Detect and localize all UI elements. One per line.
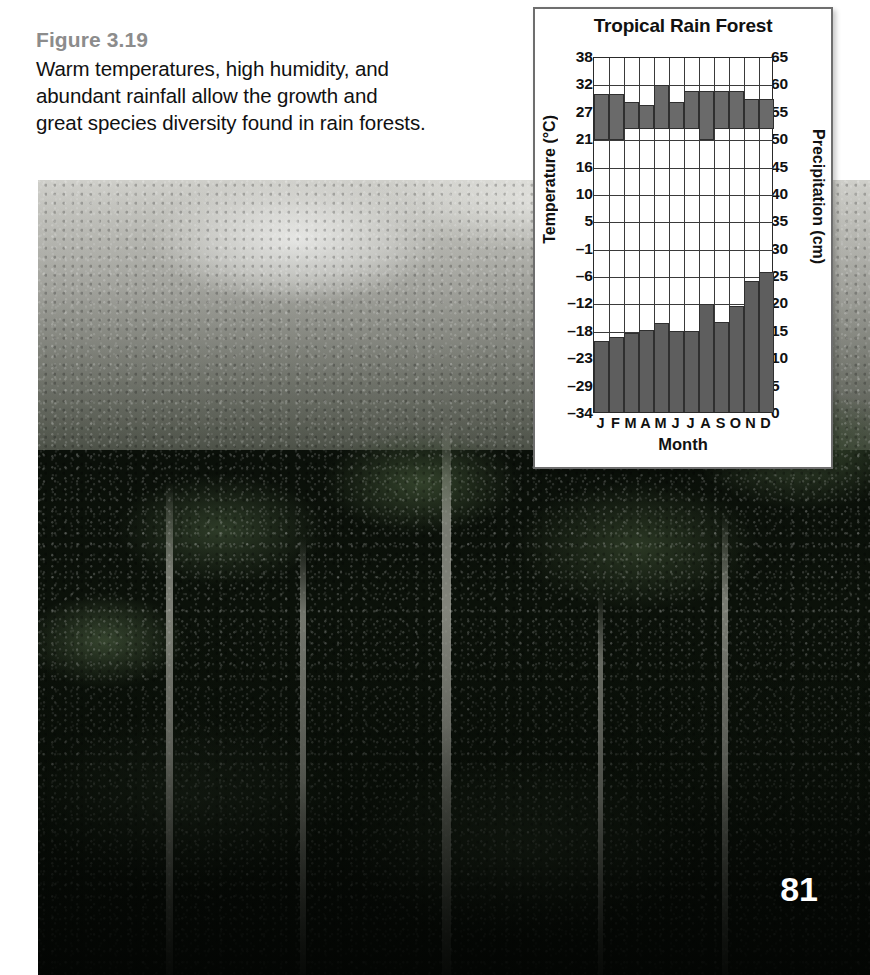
y-tick-right: 45 [771, 159, 807, 175]
gridline-horizontal [594, 140, 772, 141]
caption-line-3: great species diversity found in rain fo… [36, 109, 476, 136]
y-tick-left: –6 [557, 268, 593, 284]
figure-caption: Figure 3.19 Warm temperatures, high humi… [36, 28, 476, 136]
x-tick-month: J [668, 415, 683, 431]
gridline-horizontal [594, 222, 772, 223]
gridline-horizontal [594, 277, 772, 278]
temperature-range-band [744, 99, 759, 129]
x-tick-month: M [653, 415, 668, 431]
x-tick-month: N [743, 415, 758, 431]
y-tick-right: 20 [771, 296, 807, 312]
y-tick-right: 15 [771, 323, 807, 339]
y-tick-right: 55 [771, 104, 807, 120]
climatogram-chart: Tropical Rain Forest Temperature (°C) Pr… [533, 7, 833, 469]
x-tick-month: M [623, 415, 638, 431]
chart-title: Tropical Rain Forest [535, 15, 831, 37]
y-tick-right: 0 [771, 405, 807, 421]
y-tick-right: 25 [771, 268, 807, 284]
y-axis-ticks-right: 65605550454035302520151050 [771, 43, 807, 413]
gridline-horizontal [594, 85, 772, 86]
precipitation-bar [714, 322, 729, 412]
temperature-range-band [669, 102, 684, 129]
temperature-range-band [699, 91, 714, 140]
figure-label: Figure 3.19 [36, 28, 476, 52]
y-tick-left: 38 [557, 49, 593, 65]
page-number: 81 [780, 870, 818, 909]
y-tick-right: 65 [771, 49, 807, 65]
temperature-range-band [729, 91, 744, 129]
y-axis-title-precipitation: Precipitation (cm) [809, 129, 827, 264]
y-tick-right: 50 [771, 131, 807, 147]
precipitation-bar [729, 306, 744, 412]
y-tick-left: –12 [557, 296, 593, 312]
y-tick-right: 35 [771, 214, 807, 230]
x-tick-month: S [713, 415, 728, 431]
temperature-range-band [609, 94, 624, 141]
y-tick-right: 5 [771, 378, 807, 394]
y-tick-right: 60 [771, 77, 807, 93]
y-tick-left: –18 [557, 323, 593, 339]
y-tick-left: 21 [557, 131, 593, 147]
temperature-range-band [624, 102, 639, 129]
y-tick-left: –29 [557, 378, 593, 394]
precipitation-bar [744, 281, 759, 412]
temperature-range-band [759, 99, 774, 129]
y-tick-left: –34 [557, 405, 593, 421]
y-tick-right: 40 [771, 186, 807, 202]
x-tick-month: D [758, 415, 773, 431]
precipitation-bar [654, 323, 669, 412]
y-tick-right: 30 [771, 241, 807, 257]
y-axis-ticks-left: 3832272116105–1–6–12–18–23–29–34 [557, 43, 593, 413]
y-tick-left: 27 [557, 104, 593, 120]
caption-line-1: Warm temperatures, high humidity, and [36, 55, 476, 82]
y-tick-left: 32 [557, 77, 593, 93]
precipitation-bar [624, 333, 639, 412]
y-tick-left: 16 [557, 159, 593, 175]
caption-line-2: abundant rainfall allow the growth and [36, 82, 476, 109]
x-tick-month: O [728, 415, 743, 431]
precipitation-bar [594, 341, 609, 412]
photo-understory-shadow [38, 609, 870, 975]
precipitation-bar [639, 330, 654, 412]
y-tick-left: –23 [557, 350, 593, 366]
temperature-range-band [594, 94, 609, 141]
plot-area [593, 57, 773, 413]
gridline-horizontal [594, 168, 772, 169]
chart-body: Temperature (°C) Precipitation (cm) 3832… [535, 43, 831, 443]
precipitation-bar [669, 331, 684, 412]
x-tick-month: A [638, 415, 653, 431]
x-tick-month: J [683, 415, 698, 431]
y-tick-left: 5 [557, 214, 593, 230]
figure-caption-text: Warm temperatures, high humidity, and ab… [36, 55, 476, 136]
temperature-range-band [714, 91, 729, 129]
y-tick-left: 10 [557, 186, 593, 202]
x-axis-title: Month [593, 435, 773, 454]
x-axis-month-labels: JFMAMJJASOND [593, 415, 773, 431]
gridline-horizontal [594, 250, 772, 251]
gridline-horizontal [594, 195, 772, 196]
precipitation-bar [684, 331, 699, 412]
x-tick-month: F [608, 415, 623, 431]
temperature-range-band [684, 91, 699, 129]
precipitation-bar [699, 304, 714, 412]
precipitation-bar [759, 272, 774, 412]
x-tick-month: J [593, 415, 608, 431]
temperature-range-band [654, 85, 669, 128]
x-tick-month: A [698, 415, 713, 431]
y-tick-left: –1 [557, 241, 593, 257]
temperature-range-band [639, 105, 654, 129]
precipitation-bar [609, 337, 624, 412]
y-tick-right: 10 [771, 350, 807, 366]
